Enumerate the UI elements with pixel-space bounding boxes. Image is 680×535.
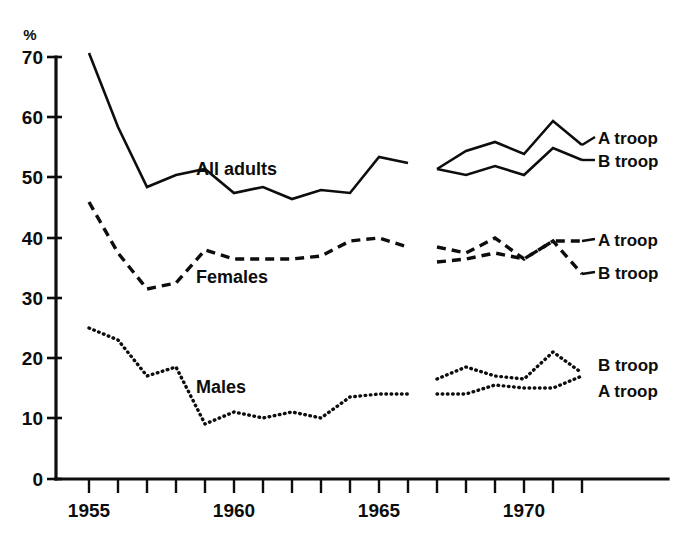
label-females-a-troop: A troop bbox=[598, 231, 658, 250]
y-axis-labels: % 70 60 50 40 30 20 10 0 bbox=[22, 26, 43, 490]
series-all-adults-a-troop-line bbox=[437, 121, 582, 169]
y-tick-label-20: 20 bbox=[22, 348, 43, 369]
y-tick-label-0: 0 bbox=[32, 469, 43, 490]
series-males-b-troop-line bbox=[437, 352, 582, 379]
series-all-adults-b-troop-line bbox=[437, 148, 582, 175]
label-males-a-troop: A troop bbox=[598, 382, 658, 401]
leader-females-b-troop bbox=[582, 272, 595, 274]
label-all-adults-a-troop: A troop bbox=[598, 129, 658, 148]
leader-all-adults-a-troop bbox=[582, 137, 595, 145]
label-females-b-troop: B troop bbox=[598, 264, 658, 283]
x-axis-labels: 1955 1960 1965 1970 bbox=[68, 500, 545, 521]
series-females-a-troop-line bbox=[437, 238, 582, 259]
y-tick-label-70: 70 bbox=[22, 47, 43, 68]
x-tick-label-1955: 1955 bbox=[68, 500, 111, 521]
line-chart-svg: % 70 60 50 40 30 20 10 0 bbox=[0, 0, 680, 535]
chart-figure: % 70 60 50 40 30 20 10 0 bbox=[0, 0, 680, 535]
series-males-a-troop-line bbox=[437, 376, 582, 394]
y-axis-unit-label: % bbox=[23, 26, 36, 43]
annotation-males: Males bbox=[196, 377, 246, 397]
x-tick-label-1965: 1965 bbox=[358, 500, 401, 521]
x-tick-label-1960: 1960 bbox=[213, 500, 255, 521]
leader-females-a-troop bbox=[582, 239, 595, 241]
series-females-b-troop-line bbox=[437, 241, 582, 274]
annotation-females: Females bbox=[196, 267, 268, 287]
y-tick-label-30: 30 bbox=[22, 288, 43, 309]
annotation-all-adults: All adults bbox=[196, 159, 277, 179]
y-tick-label-40: 40 bbox=[22, 228, 43, 249]
label-males-b-troop: B troop bbox=[598, 356, 658, 375]
y-tick-label-60: 60 bbox=[22, 107, 43, 128]
y-tick-label-50: 50 bbox=[22, 167, 43, 188]
x-axis-ticks bbox=[89, 479, 582, 493]
y-tick-label-10: 10 bbox=[22, 408, 43, 429]
series-males-line bbox=[89, 328, 408, 424]
label-all-adults-b-troop: B troop bbox=[598, 152, 658, 171]
x-tick-label-1970: 1970 bbox=[503, 500, 545, 521]
